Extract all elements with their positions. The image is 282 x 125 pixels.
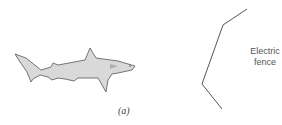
fence-label-line1: Electric xyxy=(240,46,282,57)
shark-body xyxy=(15,48,135,92)
fence-label-line2: fence xyxy=(240,57,282,68)
figure-caption: (a) xyxy=(118,105,130,116)
shark-eye xyxy=(129,65,131,67)
shark-illustration xyxy=(15,48,135,92)
electric-fence-label: Electric fence xyxy=(240,46,282,68)
